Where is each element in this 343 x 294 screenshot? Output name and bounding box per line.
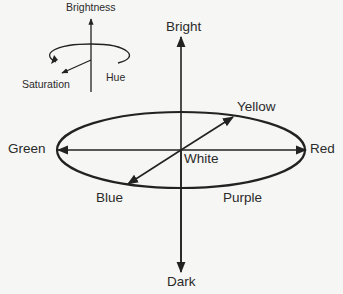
hue-label: Hue	[106, 72, 125, 83]
main-axes	[57, 37, 306, 272]
blue-label: Blue	[96, 191, 123, 205]
diagram-graphics	[0, 0, 343, 294]
green-label: Green	[8, 142, 46, 156]
saturation-label: Saturation	[22, 79, 70, 90]
bright-label: Bright	[166, 20, 201, 34]
red-label: Red	[310, 142, 335, 156]
blue-arrow	[128, 150, 181, 184]
purple-label: Purple	[223, 191, 262, 205]
yellow-arrow	[181, 117, 233, 150]
color-space-diagram: Brightness Hue Saturation Bright Dark Gr…	[0, 0, 343, 294]
saturation-axis-arrow	[62, 60, 91, 73]
dark-label: Dark	[167, 275, 196, 289]
yellow-label: Yellow	[237, 100, 276, 114]
brightness-label: Brightness	[66, 2, 116, 13]
white-label: White	[184, 152, 219, 166]
